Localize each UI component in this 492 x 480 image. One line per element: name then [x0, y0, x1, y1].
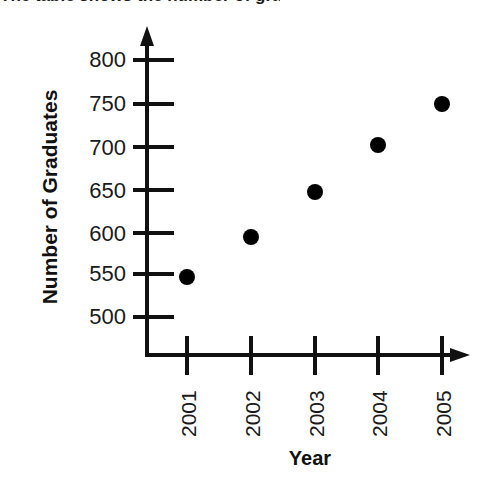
scatter-plot: [0, 0, 492, 480]
data-point-2005[interactable]: [434, 96, 450, 112]
chart-page: The table shows the number of graduates …: [0, 0, 492, 480]
data-point-2002[interactable]: [243, 229, 259, 245]
data-points: [179, 96, 450, 285]
data-point-2001[interactable]: [179, 269, 195, 285]
y-tick-marks: [133, 60, 174, 317]
data-point-2003[interactable]: [307, 184, 323, 200]
x-axis: [147, 348, 470, 362]
data-point-2004[interactable]: [370, 137, 386, 153]
